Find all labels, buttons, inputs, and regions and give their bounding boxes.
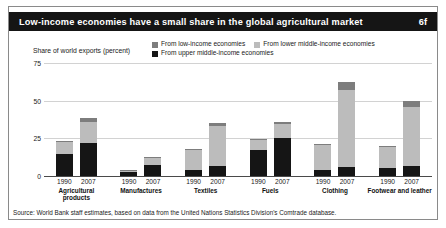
year-label: 2007 <box>144 178 161 185</box>
bar-segment <box>250 150 267 176</box>
stacked-bar <box>144 157 161 176</box>
bar-segment <box>379 147 396 167</box>
stacked-bar <box>314 144 331 176</box>
x-axis-group-label: 19902007Textiles <box>173 178 238 194</box>
bar-segment <box>56 142 73 154</box>
legend-row-1: From low-income economies From lower mid… <box>152 40 442 49</box>
legend-swatch-icon <box>152 42 158 48</box>
year-label: 2007 <box>274 178 291 185</box>
bar-segment <box>80 122 97 143</box>
bar-segment <box>80 143 97 176</box>
stacked-bar <box>80 118 97 176</box>
y-axis-tick-label: 50 <box>33 97 41 104</box>
year-label: 2007 <box>338 178 355 185</box>
page-title: Low-income economies have a small share … <box>19 17 363 27</box>
year-label-row: 19902007 <box>367 178 432 185</box>
x-axis-group-label: 19902007Manufactures <box>109 178 174 194</box>
year-label: 2007 <box>80 178 97 185</box>
legend-label: From upper middle-income economies <box>161 50 274 57</box>
bar-segment <box>250 140 267 151</box>
bar-group <box>44 63 109 176</box>
year-label-row: 19902007 <box>109 178 174 185</box>
legend-label: From lower middle-income economies <box>263 41 374 48</box>
y-axis-tick-label: 75 <box>33 60 41 67</box>
bar-segment <box>209 166 226 176</box>
bar-segment <box>403 107 420 167</box>
year-label: 1990 <box>314 178 331 185</box>
x-axis-group-label: 19902007Footwear and leather <box>367 178 432 194</box>
year-label: 1990 <box>185 178 202 185</box>
bar-segment <box>185 150 202 170</box>
y-axis-tick-label: 0 <box>37 173 41 180</box>
stacked-bar <box>209 123 226 176</box>
category-label: Manufactures <box>109 187 174 194</box>
figure-title-bar: Low-income economies have a small share … <box>9 12 437 31</box>
bar-group <box>238 63 303 176</box>
bar-segment <box>56 154 73 176</box>
stacked-bar <box>274 122 291 176</box>
bar-segment <box>403 166 420 176</box>
figure-number: 6f <box>419 17 427 27</box>
year-label-row: 19902007 <box>238 178 303 185</box>
y-axis-title: Share of world exports (percent) <box>33 47 130 54</box>
bar-segment <box>274 138 291 176</box>
bar-segment <box>338 167 355 176</box>
bar-segment <box>379 168 396 176</box>
chart-legend: From low-income economies From lower mid… <box>152 40 442 58</box>
stacked-bar <box>185 149 202 176</box>
legend-swatch-icon <box>254 42 260 48</box>
year-label: 1990 <box>379 178 396 185</box>
bar-segment <box>209 126 226 166</box>
x-axis-group-label: 19902007Clothing <box>303 178 368 194</box>
bar-segment <box>338 90 355 167</box>
bar-segment <box>338 82 355 90</box>
bar-group <box>109 63 174 176</box>
bar-segment <box>314 145 331 170</box>
category-label: Agricultural products <box>44 187 109 201</box>
x-axis-group-label: 19902007Agricultural products <box>44 178 109 201</box>
legend-item-upper-middle-income: From upper middle-income economies <box>152 50 274 57</box>
figure-panel: Low-income economies have a small share … <box>0 0 446 228</box>
bar-group <box>173 63 238 176</box>
plot-area: 0255075 <box>44 63 432 176</box>
legend-item-lower-middle-income: From lower middle-income economies <box>254 41 374 48</box>
year-label-row: 19902007 <box>173 178 238 185</box>
bar-segment <box>274 124 291 138</box>
bar-segment <box>144 165 161 176</box>
source-note: Source: World Bank staff estimates, base… <box>13 209 336 216</box>
legend-label: From low-income economies <box>161 41 245 48</box>
year-label-row: 19902007 <box>303 178 368 185</box>
y-axis-tick-label: 25 <box>33 135 41 142</box>
legend-swatch-icon <box>152 51 158 57</box>
bar-group <box>303 63 368 176</box>
x-axis-labels: 19902007Agricultural products19902007Man… <box>44 178 432 208</box>
year-label: 1990 <box>120 178 137 185</box>
legend-item-low-income: From low-income economies <box>152 41 245 48</box>
year-label: 2007 <box>403 178 420 185</box>
stacked-bar <box>379 146 396 176</box>
bar-segment <box>144 158 161 165</box>
stacked-bar <box>250 139 267 176</box>
year-label-row: 19902007 <box>44 178 109 185</box>
category-label: Textiles <box>173 187 238 194</box>
category-label: Fuels <box>238 187 303 194</box>
stacked-bar <box>56 141 73 176</box>
category-label: Footwear and leather <box>367 187 432 194</box>
year-label: 1990 <box>250 178 267 185</box>
stacked-bar <box>403 101 420 176</box>
bar-group <box>367 63 432 176</box>
category-label: Clothing <box>303 187 368 194</box>
year-label: 2007 <box>209 178 226 185</box>
year-label: 1990 <box>56 178 73 185</box>
x-axis-group-label: 19902007Fuels <box>238 178 303 194</box>
x-axis-line <box>44 176 432 177</box>
stacked-bar <box>338 82 355 176</box>
legend-row-2: From upper middle-income economies <box>152 49 442 58</box>
